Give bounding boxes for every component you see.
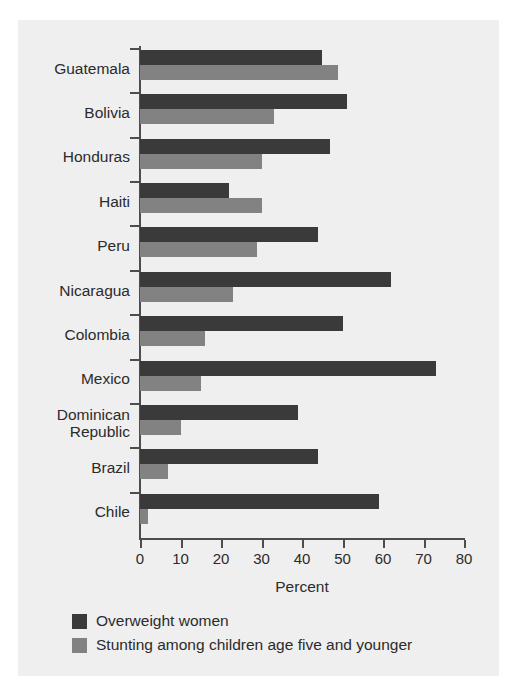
category-label: Colombia xyxy=(10,326,130,343)
bar xyxy=(140,316,343,331)
legend-item: Overweight women xyxy=(72,612,412,630)
bar xyxy=(140,109,274,124)
x-axis-tick xyxy=(302,540,304,548)
bar-group xyxy=(140,270,464,314)
x-axis-tick-label: 60 xyxy=(363,550,403,567)
category-label: Nicaragua xyxy=(10,282,130,299)
category-tick xyxy=(130,270,140,272)
bar xyxy=(140,227,318,242)
category-label: Chile xyxy=(10,503,130,520)
x-axis-tick xyxy=(221,540,223,548)
category-label: Brazil xyxy=(10,459,130,476)
bar xyxy=(140,50,322,65)
bar-group xyxy=(140,447,464,491)
x-axis-tick-label: 80 xyxy=(444,550,484,567)
bar xyxy=(140,272,391,287)
chart-figure: GuatemalaBoliviaHondurasHaitiPeruNicarag… xyxy=(0,0,517,694)
x-axis-tick xyxy=(464,540,466,548)
bar xyxy=(140,183,229,198)
category-label: Honduras xyxy=(10,148,130,165)
category-tick xyxy=(130,225,140,227)
chart-legend: Overweight women Stunting among children… xyxy=(72,612,412,660)
category-axis-labels: GuatemalaBoliviaHondurasHaitiPeruNicarag… xyxy=(10,48,130,536)
bar xyxy=(140,139,330,154)
bar-group xyxy=(140,359,464,403)
bar xyxy=(140,376,201,391)
bar xyxy=(140,198,262,213)
legend-label: Stunting among children age five and you… xyxy=(96,636,412,654)
x-axis-tick xyxy=(181,540,183,548)
bar-group xyxy=(140,314,464,358)
bar-group xyxy=(140,225,464,269)
category-label: Haiti xyxy=(10,193,130,210)
category-label: Bolivia xyxy=(10,104,130,121)
legend-item: Stunting among children age five and you… xyxy=(72,636,412,654)
bar xyxy=(140,405,298,420)
x-axis-tick xyxy=(383,540,385,548)
bar xyxy=(140,154,262,169)
category-label: Mexico xyxy=(10,370,130,387)
bar xyxy=(140,242,257,257)
bar xyxy=(140,449,318,464)
legend-label: Overweight women xyxy=(96,612,229,630)
category-label: Guatemala xyxy=(10,60,130,77)
bar xyxy=(140,65,338,80)
x-axis-tick xyxy=(262,540,264,548)
x-axis-tick xyxy=(343,540,345,548)
category-label: Peru xyxy=(10,237,130,254)
x-axis-tick-label: 0 xyxy=(120,550,160,567)
category-tick xyxy=(130,492,140,494)
category-tick xyxy=(130,48,140,50)
bar-group xyxy=(140,403,464,447)
x-axis-tick-label: 70 xyxy=(404,550,444,567)
bar xyxy=(140,331,205,346)
bar xyxy=(140,509,148,524)
bar xyxy=(140,361,436,376)
bar xyxy=(140,420,181,435)
bar xyxy=(140,94,347,109)
plot-area xyxy=(140,48,464,536)
x-axis-title: Percent xyxy=(139,578,465,596)
x-axis-tick-label: 20 xyxy=(201,550,241,567)
category-tick xyxy=(130,181,140,183)
x-axis-tick xyxy=(424,540,426,548)
category-tick xyxy=(130,359,140,361)
category-tick xyxy=(130,447,140,449)
bar-group xyxy=(140,492,464,536)
bar-group xyxy=(140,48,464,92)
bar-group xyxy=(140,92,464,136)
x-axis-tick-label: 10 xyxy=(161,550,201,567)
x-axis-tick xyxy=(140,540,142,548)
category-label: DominicanRepublic xyxy=(10,406,130,440)
bar xyxy=(140,464,168,479)
x-axis-tick-label: 30 xyxy=(242,550,282,567)
x-axis-tick-label: 50 xyxy=(323,550,363,567)
category-tick xyxy=(130,92,140,94)
bar-group xyxy=(140,181,464,225)
x-axis-tick-label: 40 xyxy=(282,550,322,567)
bar xyxy=(140,287,233,302)
category-tick xyxy=(130,314,140,316)
bar-group xyxy=(140,137,464,181)
legend-swatch-overweight-women xyxy=(72,614,87,629)
bar xyxy=(140,494,379,509)
category-tick xyxy=(130,137,140,139)
category-tick xyxy=(130,403,140,405)
legend-swatch-stunting-children xyxy=(72,638,87,653)
